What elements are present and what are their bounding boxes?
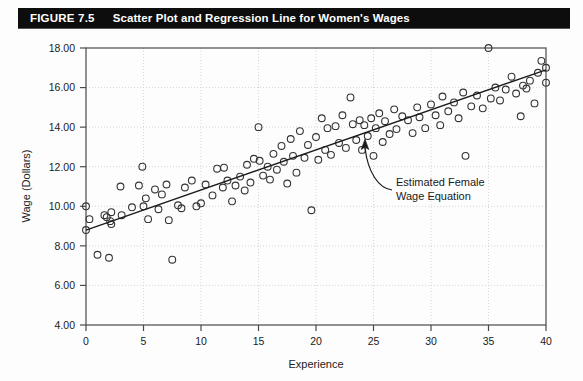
data-point-marker bbox=[182, 184, 189, 191]
x-axis-label: Experience bbox=[288, 358, 343, 370]
data-point-marker bbox=[305, 142, 312, 149]
data-point-marker bbox=[379, 139, 386, 146]
data-point-marker bbox=[117, 183, 124, 190]
data-point-marker bbox=[229, 198, 236, 205]
x-tick-label: 35 bbox=[483, 335, 495, 347]
data-point-marker bbox=[479, 105, 486, 112]
data-point-marker bbox=[460, 89, 467, 96]
x-tick-label: 5 bbox=[141, 335, 147, 347]
data-point-marker bbox=[94, 251, 101, 258]
data-point-marker bbox=[136, 182, 143, 189]
data-point-marker bbox=[209, 192, 216, 199]
figure-container: FIGURE 7.5 Scatter Plot and Regression L… bbox=[0, 0, 583, 381]
data-point-marker bbox=[221, 164, 228, 171]
x-tick-label: 15 bbox=[253, 335, 265, 347]
data-point-marker bbox=[287, 136, 294, 143]
data-point-marker bbox=[219, 184, 226, 191]
data-point-marker bbox=[318, 115, 325, 122]
x-tick-label: 10 bbox=[195, 335, 207, 347]
data-point-marker bbox=[347, 94, 354, 101]
data-point-marker bbox=[267, 176, 274, 183]
data-point-marker bbox=[155, 206, 162, 213]
y-tick-label: 6.00 bbox=[55, 279, 76, 291]
data-point-marker bbox=[129, 204, 136, 211]
y-tick-label: 4.00 bbox=[55, 319, 76, 331]
y-tick-label: 8.00 bbox=[55, 240, 76, 252]
data-point-marker bbox=[462, 152, 469, 159]
data-point-marker bbox=[445, 108, 452, 115]
data-point-marker bbox=[437, 122, 444, 129]
data-point-marker bbox=[332, 123, 339, 130]
data-point-marker bbox=[339, 112, 346, 119]
data-point-marker bbox=[376, 110, 383, 117]
data-point-marker bbox=[517, 113, 524, 120]
data-point-marker bbox=[455, 115, 462, 122]
data-point-marker bbox=[353, 137, 360, 144]
data-point-marker bbox=[159, 191, 166, 198]
annotation-arrow-curve bbox=[365, 148, 392, 190]
data-point-marker bbox=[324, 125, 331, 132]
x-tick-label: 20 bbox=[310, 335, 322, 347]
data-point-marker bbox=[139, 163, 146, 170]
data-point-marker bbox=[278, 143, 285, 150]
data-point-marker bbox=[308, 207, 315, 214]
data-point-marker bbox=[313, 134, 320, 141]
data-point-marker bbox=[297, 128, 304, 135]
x-tick-label: 30 bbox=[425, 335, 437, 347]
y-tick-label: 12.00 bbox=[49, 161, 75, 173]
data-point-marker bbox=[361, 122, 368, 129]
scatter-plot: 4.006.008.0010.0012.0014.0016.0018.00 05… bbox=[0, 0, 583, 381]
data-point-marker bbox=[432, 112, 439, 119]
data-point-marker bbox=[214, 165, 221, 172]
y-tick-label: 18.00 bbox=[49, 42, 75, 54]
data-point-marker bbox=[270, 150, 277, 157]
data-point-marker bbox=[382, 118, 389, 125]
data-point-marker bbox=[328, 151, 335, 158]
data-point-marker bbox=[487, 95, 494, 102]
y-tick-label: 16.00 bbox=[49, 81, 75, 93]
data-point-marker bbox=[165, 217, 172, 224]
plot-svg-canvas: 4.006.008.0010.0012.0014.0016.0018.00 05… bbox=[0, 0, 583, 381]
data-point-marker bbox=[247, 179, 254, 186]
data-point-marker bbox=[409, 130, 416, 137]
data-point-marker bbox=[188, 177, 195, 184]
data-point-marker bbox=[169, 256, 176, 263]
data-point-marker bbox=[531, 100, 538, 107]
data-point-marker bbox=[86, 216, 93, 223]
data-point-marker bbox=[391, 106, 398, 113]
data-point-marker bbox=[386, 131, 393, 138]
data-point-marker bbox=[274, 166, 281, 173]
data-point-marker bbox=[422, 125, 429, 132]
data-point-marker bbox=[293, 169, 300, 176]
data-point-marker bbox=[108, 209, 115, 216]
x-tick-label: 40 bbox=[540, 335, 552, 347]
data-point-marker bbox=[527, 77, 534, 84]
x-axis-tick-labels: 0510152025303540 bbox=[83, 335, 552, 347]
x-tick-label: 0 bbox=[83, 335, 89, 347]
annotation-callout bbox=[361, 139, 392, 190]
data-point-marker bbox=[152, 186, 159, 193]
data-point-marker bbox=[145, 216, 152, 223]
annotation-line-2: Wage Equation bbox=[396, 190, 471, 202]
x-tick-label: 25 bbox=[368, 335, 380, 347]
data-point-marker bbox=[364, 133, 371, 140]
data-point-marker bbox=[508, 73, 515, 80]
data-point-marker bbox=[513, 90, 520, 97]
data-point-marker bbox=[497, 97, 504, 104]
annotation-line-1: Estimated Female bbox=[396, 176, 485, 188]
data-point-marker bbox=[241, 187, 248, 194]
data-point-marker bbox=[301, 154, 308, 161]
data-point-marker bbox=[106, 254, 113, 261]
data-point-marker bbox=[414, 104, 421, 111]
data-point-marker bbox=[368, 115, 375, 122]
data-point-marker bbox=[244, 161, 251, 168]
y-tick-label: 10.00 bbox=[49, 200, 75, 212]
y-axis-label: Wage (Dollars) bbox=[20, 150, 32, 223]
data-point-marker bbox=[502, 86, 509, 93]
y-tick-label: 14.00 bbox=[49, 121, 75, 133]
data-point-marker bbox=[260, 172, 267, 179]
data-point-marker bbox=[393, 126, 400, 133]
data-point-marker bbox=[349, 121, 356, 128]
data-point-marker bbox=[468, 103, 475, 110]
data-point-marker bbox=[538, 57, 545, 64]
